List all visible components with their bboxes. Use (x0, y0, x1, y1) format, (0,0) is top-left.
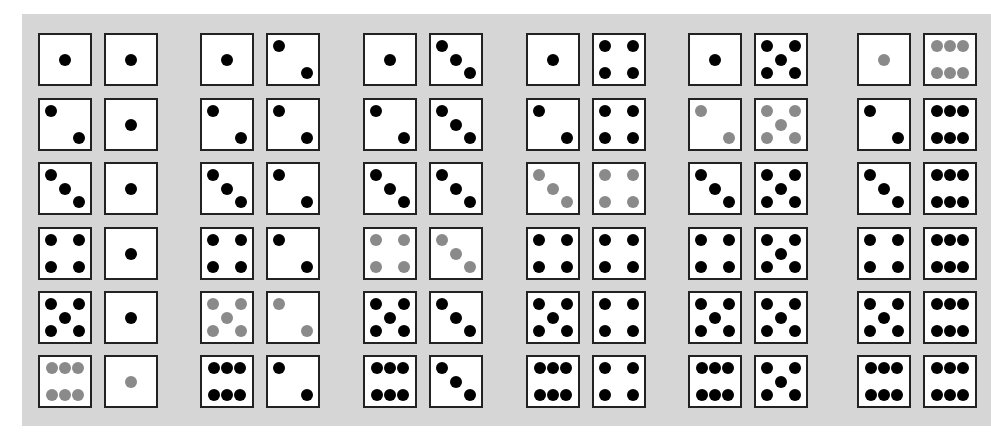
pip-dot (208, 362, 220, 374)
pip-dot (436, 105, 448, 117)
pip-dot (789, 389, 801, 401)
pip-dot (450, 248, 462, 260)
pip-dot (761, 132, 773, 144)
pip-dot (45, 234, 57, 246)
pip-dot (560, 362, 572, 374)
pip-dot (864, 261, 876, 273)
pip-dot (46, 389, 58, 401)
pip-dot (944, 132, 956, 144)
pip-dot (931, 169, 943, 181)
pip-dot (450, 119, 462, 131)
die-first (526, 33, 580, 86)
pip-dot (944, 67, 956, 79)
pip-dot (273, 169, 285, 181)
die-first (526, 355, 580, 408)
pip-dot (878, 54, 890, 66)
pip-dot (301, 132, 313, 144)
pip-dot (59, 312, 71, 324)
pip-dot (709, 312, 721, 324)
pip-dot (533, 261, 545, 273)
pip-dot (878, 183, 890, 195)
die-first (526, 291, 580, 344)
die-first (526, 162, 580, 215)
pip-dot (125, 183, 137, 195)
die-first (200, 291, 254, 344)
die-first (688, 227, 742, 280)
die-second (754, 33, 808, 86)
pip-dot (370, 325, 382, 337)
pip-dot (73, 325, 85, 337)
pip-dot (599, 362, 611, 374)
pip-dot (464, 389, 476, 401)
pip-dot (599, 105, 611, 117)
pip-dot (696, 362, 708, 374)
pip-dot (695, 325, 707, 337)
pip-dot (599, 389, 611, 401)
die-second (923, 227, 977, 280)
die-second (266, 355, 320, 408)
die-second (592, 162, 646, 215)
pip-dot (273, 298, 285, 310)
pip-dot (547, 312, 559, 324)
pip-dot (450, 312, 462, 324)
pip-dot (695, 298, 707, 310)
pip-dot (59, 54, 71, 66)
pip-dot (235, 325, 247, 337)
pip-dot (370, 261, 382, 273)
pip-dot (931, 132, 943, 144)
pip-dot (709, 54, 721, 66)
pip-dot (627, 298, 639, 310)
pip-dot (384, 389, 396, 401)
pip-dot (398, 234, 410, 246)
pip-dot (561, 325, 573, 337)
pip-dot (944, 105, 956, 117)
die-second (266, 33, 320, 86)
pip-dot (944, 298, 956, 310)
pip-dot (957, 67, 969, 79)
pip-dot (892, 261, 904, 273)
die-first (363, 355, 417, 408)
pip-dot (761, 261, 773, 273)
pip-dot (695, 261, 707, 273)
pip-dot (534, 389, 546, 401)
pip-dot (235, 298, 247, 310)
pip-dot (789, 132, 801, 144)
pip-dot (944, 362, 956, 374)
pip-dot (384, 312, 396, 324)
pip-dot (59, 389, 71, 401)
pip-dot (599, 132, 611, 144)
pip-dot (125, 248, 137, 260)
pip-dot (627, 105, 639, 117)
pip-dot (931, 67, 943, 79)
die-second (754, 291, 808, 344)
die-first (688, 33, 742, 86)
pip-dot (957, 389, 969, 401)
pip-dot (235, 132, 247, 144)
pip-dot (45, 261, 57, 273)
pip-dot (723, 196, 735, 208)
die-first (688, 355, 742, 408)
pip-dot (436, 40, 448, 52)
die-second (754, 162, 808, 215)
pip-dot (627, 325, 639, 337)
pip-dot (45, 105, 57, 117)
die-second (104, 227, 158, 280)
pip-dot (125, 119, 137, 131)
pip-dot (397, 362, 409, 374)
pip-dot (207, 105, 219, 117)
pip-dot (221, 312, 233, 324)
die-second (266, 98, 320, 151)
pip-dot (864, 298, 876, 310)
pip-dot (534, 362, 546, 374)
pip-dot (561, 196, 573, 208)
pip-dot (371, 389, 383, 401)
die-first (363, 162, 417, 215)
pip-dot (221, 362, 233, 374)
pip-dot (709, 362, 721, 374)
pip-dot (957, 325, 969, 337)
pip-dot (761, 362, 773, 374)
pip-dot (234, 362, 246, 374)
die-first (363, 33, 417, 86)
pip-dot (957, 196, 969, 208)
pip-dot (789, 234, 801, 246)
